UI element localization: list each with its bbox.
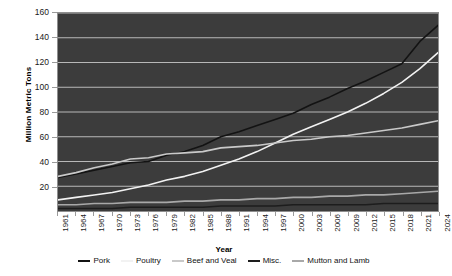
x-tick-label: 1967 bbox=[97, 214, 106, 232]
x-tick-label: 2021 bbox=[424, 214, 433, 232]
x-tick-label: 2000 bbox=[297, 214, 306, 232]
y-tick-label: 80 bbox=[40, 108, 49, 116]
plot-svg bbox=[58, 13, 438, 211]
legend-swatch-icon bbox=[121, 260, 133, 262]
legend-swatch-icon bbox=[248, 260, 260, 262]
series-line-mutton-and-lamb bbox=[58, 191, 438, 205]
x-tick-label: 1961 bbox=[61, 214, 70, 232]
x-tick-mark bbox=[57, 212, 58, 216]
legend-label: Pork bbox=[93, 256, 109, 265]
x-tick-mark bbox=[112, 212, 113, 216]
x-tick-mark bbox=[93, 212, 94, 216]
x-tick-label: 1979 bbox=[170, 214, 179, 232]
legend-swatch-icon bbox=[78, 260, 90, 262]
y-tick-label: 120 bbox=[35, 58, 49, 66]
series-line-misc bbox=[58, 204, 438, 209]
x-tick-label: 2024 bbox=[443, 214, 452, 232]
x-tick-mark bbox=[130, 212, 131, 216]
x-tick-mark bbox=[203, 212, 204, 216]
gridlines bbox=[58, 13, 438, 186]
x-tick-mark bbox=[239, 212, 240, 216]
plot-area bbox=[57, 12, 439, 212]
y-tick-label: 140 bbox=[35, 33, 49, 41]
x-tick-label: 2018 bbox=[406, 214, 415, 232]
y-tick-label: 60 bbox=[40, 133, 49, 141]
legend-item[interactable]: Poultry bbox=[121, 256, 161, 265]
x-tick-mark bbox=[384, 212, 385, 216]
x-tick-label: 2015 bbox=[388, 214, 397, 232]
legend-item[interactable]: Mutton and Lamb bbox=[292, 256, 369, 265]
legend-label: Mutton and Lamb bbox=[307, 256, 369, 265]
x-tick-mark bbox=[330, 212, 331, 216]
x-tick-mark bbox=[221, 212, 222, 216]
y-tick-label: 20 bbox=[40, 183, 49, 191]
x-tick-mark bbox=[366, 212, 367, 216]
x-tick-mark bbox=[257, 212, 258, 216]
x-tick-label: 1991 bbox=[242, 214, 251, 232]
legend-item[interactable]: Pork bbox=[78, 256, 109, 265]
x-tick-label: 1973 bbox=[133, 214, 142, 232]
x-tick-mark bbox=[148, 212, 149, 216]
x-tick-label: 1994 bbox=[261, 214, 270, 232]
x-tick-label: 1985 bbox=[206, 214, 215, 232]
legend-label: Misc. bbox=[263, 256, 282, 265]
legend-item[interactable]: Beef and Veal bbox=[172, 256, 237, 265]
series-line-poultry bbox=[58, 53, 438, 200]
x-tick-label: 1970 bbox=[115, 214, 124, 232]
x-tick-label: 2009 bbox=[352, 214, 361, 232]
legend-swatch-icon bbox=[172, 260, 184, 262]
x-tick-mark bbox=[348, 212, 349, 216]
x-tick-mark bbox=[166, 212, 167, 216]
x-axis-title: Year bbox=[0, 245, 448, 254]
y-tick-label: 160 bbox=[35, 8, 49, 16]
legend-label: Beef and Veal bbox=[187, 256, 237, 265]
legend-item[interactable]: Misc. bbox=[248, 256, 282, 265]
x-tick-mark bbox=[439, 212, 440, 216]
x-tick-label: 1964 bbox=[79, 214, 88, 232]
x-tick-label: 1982 bbox=[188, 214, 197, 232]
x-tick-mark bbox=[421, 212, 422, 216]
legend-label: Poultry bbox=[136, 256, 161, 265]
x-tick-mark bbox=[293, 212, 294, 216]
x-tick-mark bbox=[275, 212, 276, 216]
x-tick-label: 2003 bbox=[315, 214, 324, 232]
x-tick-mark bbox=[312, 212, 313, 216]
x-tick-label: 1997 bbox=[279, 214, 288, 232]
x-tick-label: 2006 bbox=[333, 214, 342, 232]
series-lines bbox=[58, 25, 438, 208]
x-tick-mark bbox=[403, 212, 404, 216]
x-tick-mark bbox=[184, 212, 185, 216]
x-tick-label: 1988 bbox=[224, 214, 233, 232]
legend-swatch-icon bbox=[292, 260, 304, 262]
x-tick-label: 2012 bbox=[370, 214, 379, 232]
y-tick-label: 40 bbox=[40, 158, 49, 166]
y-tick-label: 100 bbox=[35, 83, 49, 91]
x-tick-label: 1976 bbox=[151, 214, 160, 232]
chart-legend: PorkPoultryBeef and VealMisc.Mutton and … bbox=[0, 256, 448, 265]
x-tick-mark bbox=[75, 212, 76, 216]
